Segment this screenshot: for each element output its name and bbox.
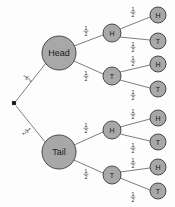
tree-node-n-ttt: T [150,183,166,199]
node-label: T [156,86,161,93]
probability-label: 12 [131,108,136,120]
tree-node-n-tail: Tail [42,135,76,169]
probability-label: 12 [131,142,136,154]
node-label: Tail [52,147,66,157]
fraction-denominator: 2 [85,128,88,134]
probability-label: 12 [21,126,33,137]
probability-tree-diagram: HeadTailHTHTHTHTHTHT 1212121212121212121… [0,0,175,207]
tree-edge [120,37,150,40]
tree-edge [74,61,103,74]
nodes-group: HeadTailHTHTHTHTHTHT [12,7,166,199]
probability-label: 12 [131,41,136,53]
tree-node-n-thh: H [150,110,166,126]
fraction-denominator: 2 [132,47,135,53]
node-label: H [109,127,114,134]
node-label: T [156,139,161,146]
tree-node-n-hth: H [150,56,166,72]
fraction-denominator: 2 [85,174,88,180]
fraction-denominator: 2 [85,76,88,82]
tree-node-n-hht: T [150,33,166,49]
tree-edge [120,65,150,72]
probability-label: 12 [131,157,136,169]
tree-node-n-head: Head [42,36,76,70]
probability-label: 12 [84,70,89,82]
probability-label: 12 [131,55,136,67]
tree-edge [120,80,150,88]
fraction-denominator: 2 [21,130,28,136]
probability-label: 12 [21,73,33,84]
probability-label: 12 [131,89,136,101]
node-label: H [155,12,160,19]
fraction-denominator: 2 [85,31,88,37]
node-label: H [155,115,160,122]
tree-node-n-hh: H [103,24,121,42]
tree-edge [120,178,150,190]
fraction-denominator: 2 [132,12,135,18]
tree-node-n-tht: T [150,134,166,150]
tree-node-n-tt: T [103,166,121,184]
probability-label: 12 [131,6,136,18]
fraction-denominator: 2 [132,148,135,154]
fraction-denominator: 2 [132,197,135,203]
node-label: T [110,73,115,80]
fraction-denominator: 2 [132,163,135,169]
tree-edge [120,119,150,127]
root-node [12,101,16,105]
probability-label: 12 [84,168,89,180]
tree-node-n-ht: T [103,67,121,85]
fraction-denominator: 2 [26,77,33,83]
tree-edge [74,132,103,145]
probability-label: 12 [84,122,89,134]
probability-label: 12 [131,191,136,203]
tree-edge [74,35,103,46]
node-label: H [109,30,114,37]
tree-edge [120,134,150,141]
fraction-denominator: 2 [132,114,135,120]
tree-node-n-htt: T [150,81,166,97]
node-label: T [156,188,161,195]
node-label: T [156,38,161,45]
node-label: H [155,164,160,171]
tree-edge [120,168,150,172]
tree-node-n-hhh: H [150,7,166,23]
tree-node-n-th: H [103,121,121,139]
tree-node-n-tth: H [150,159,166,175]
edges-group [16,17,150,190]
fraction-denominator: 2 [132,61,135,67]
tree-edge [74,160,103,173]
node-label: H [155,61,160,68]
tree-edge [120,17,150,29]
fraction-denominator: 2 [132,95,135,101]
probability-label: 12 [84,25,89,37]
node-label: T [110,172,115,179]
node-label: Head [48,48,70,58]
tree-canvas: HeadTailHTHTHTHTHTHT 1212121212121212121… [0,0,175,207]
tree-edge [16,106,46,143]
